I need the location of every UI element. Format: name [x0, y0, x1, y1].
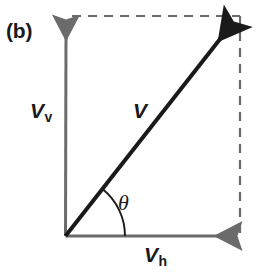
vertical-component-arrow — [66, 32, 67, 236]
vertical-component-subscript: v — [45, 109, 53, 125]
resultant-vector-arrow — [66, 34, 225, 236]
angle-label: θ — [118, 192, 129, 214]
resultant-vector-symbol: V — [133, 99, 147, 122]
horizontal-component-label: Vh — [144, 244, 167, 268]
vector-diagram-canvas — [0, 0, 262, 273]
horizontal-component-subscript: h — [159, 253, 168, 269]
vector-diagram-figure: (b) Vv V Vh θ — [0, 0, 262, 273]
resultant-vector-label: V — [133, 100, 147, 121]
vertical-component-symbol: V — [30, 99, 44, 122]
horizontal-component-symbol: V — [144, 243, 158, 266]
vertical-component-label: Vv — [30, 100, 52, 124]
panel-letter: (b) — [6, 20, 32, 41]
